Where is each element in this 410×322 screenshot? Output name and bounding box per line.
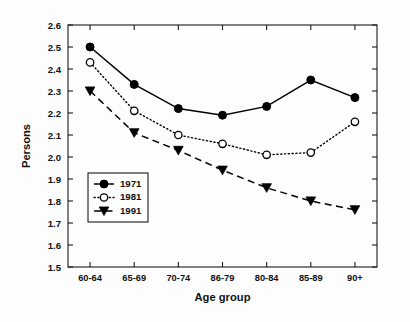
chart-legend: 197119811991	[88, 173, 148, 222]
data-point-1971-60-64	[86, 43, 94, 51]
data-point-1971-85-89	[307, 76, 315, 84]
legend-marker-1971	[100, 180, 108, 188]
y-tick-label: 2.1	[48, 130, 62, 141]
x-tick-label: 80-84	[255, 273, 280, 283]
data-point-1971-65-69	[130, 80, 138, 88]
y-tick-label: 1.7	[48, 218, 61, 229]
y-tick-label: 1.8	[48, 196, 62, 207]
data-point-1991-70-74	[174, 146, 184, 155]
legend-label-1981: 1981	[120, 191, 142, 202]
x-tick-label: 60-64	[78, 273, 103, 283]
y-tick-label: 2.6	[48, 20, 61, 31]
y-tick-label: 2.3	[48, 86, 61, 97]
x-tick-label: 85-89	[299, 273, 323, 283]
data-point-1981-60-64	[86, 59, 93, 66]
data-point-1971-70-74	[174, 105, 182, 113]
chart-figure: 1.51.61.71.81.92.02.12.22.32.42.52.660-6…	[0, 0, 410, 322]
data-point-1991-65-69	[129, 129, 139, 138]
y-tick-label: 2.2	[48, 108, 61, 119]
data-point-1981-86-79	[219, 140, 226, 147]
data-point-1971-90+	[351, 94, 359, 102]
line-chart: 1.51.61.71.81.92.02.12.22.32.42.52.660-6…	[0, 0, 410, 322]
x-tick-label: 70-74	[166, 273, 191, 283]
series-1981	[86, 59, 358, 159]
legend-label-1991: 1991	[120, 205, 142, 216]
data-point-1981-65-69	[131, 107, 138, 114]
y-tick-label: 1.5	[48, 262, 62, 273]
data-point-1981-90+	[351, 118, 358, 125]
x-tick-label: 86-79	[211, 273, 235, 283]
y-axis-title: Persons	[20, 124, 32, 168]
x-tick-label: 65-69	[122, 273, 146, 283]
x-axis-title: Age group	[195, 291, 251, 303]
data-point-1981-85-89	[307, 149, 314, 156]
data-point-1971-80-84	[263, 102, 271, 110]
y-tick-label: 1.9	[48, 174, 61, 185]
y-tick-label: 2.4	[48, 64, 62, 75]
data-point-1981-70-74	[175, 131, 182, 138]
data-point-1991-86-79	[218, 166, 228, 175]
x-tick-label: 90+	[347, 273, 363, 283]
data-point-1981-80-84	[263, 151, 270, 158]
legend-label-1971: 1971	[120, 178, 142, 189]
legend-marker-1981	[100, 194, 107, 201]
data-point-1971-86-79	[219, 111, 227, 119]
series-1971	[86, 43, 359, 119]
y-tick-label: 1.6	[48, 240, 61, 251]
y-tick-label: 2.0	[48, 152, 61, 163]
y-tick-label: 2.5	[48, 42, 62, 53]
data-point-1991-90+	[350, 206, 360, 215]
